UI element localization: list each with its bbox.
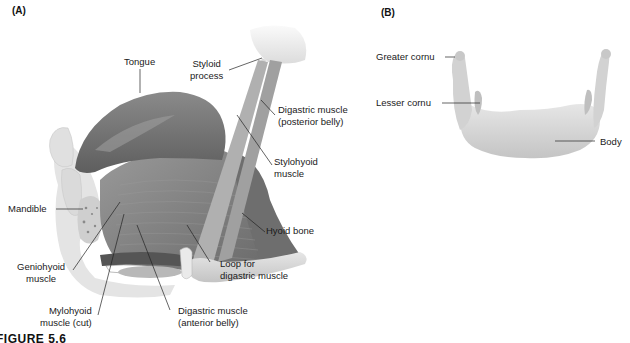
panel-a-label: (A): [12, 5, 26, 16]
figure-caption: FIGURE 5.6: [0, 332, 66, 343]
label-digastric-anterior-belly: Digastric muscle (anterior belly): [178, 305, 248, 329]
label-lesser-cornu: Lesser cornu: [376, 97, 431, 109]
right-greater-cornu: [593, 52, 609, 128]
digastric-anterior-belly: [118, 266, 182, 278]
panel-b-label: (B): [381, 7, 395, 18]
left-greater-cornu: [452, 54, 472, 130]
right-cornu-tip: [601, 49, 611, 59]
left-cornu-tip: [455, 51, 465, 61]
label-tongue: Tongue: [124, 56, 155, 68]
label-styloid-process: Styloid process: [190, 58, 223, 82]
mandible-cross-section: [78, 196, 103, 244]
label-digastric-posterior-belly: Digastric muscle (posterior belly): [278, 104, 348, 128]
label-hyoid-bone: Hyoid bone: [266, 225, 314, 237]
label-body: Body: [600, 136, 622, 148]
label-geniohyoid-muscle: Geniohyoid muscle: [17, 261, 65, 285]
skull-base: [250, 25, 306, 63]
hyoid-body: [460, 104, 600, 158]
digastric-loop: [180, 247, 192, 278]
label-mylohyoid-muscle: Mylohyoid muscle (cut): [40, 305, 92, 329]
label-mandible: Mandible: [8, 203, 47, 215]
label-loop-for-digastric: Loop for digastric muscle: [220, 258, 288, 282]
label-greater-cornu: Greater cornu: [376, 51, 435, 63]
panel-b-illustration: [452, 49, 611, 158]
label-stylohyoid-muscle: Stylohyoid muscle: [274, 156, 318, 180]
panel-a-illustration: [50, 25, 307, 297]
upper-incisor: [50, 128, 74, 167]
